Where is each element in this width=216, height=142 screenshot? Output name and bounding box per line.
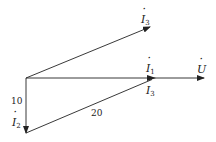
svg-text:·: · bbox=[200, 53, 204, 66]
i3-lower-phasor-arrow bbox=[26, 80, 152, 134]
i2-magnitude-label: 10 bbox=[11, 96, 23, 106]
i2-label: I2 · bbox=[11, 106, 21, 130]
u-label: U · bbox=[197, 53, 207, 76]
i3-magnitude-label: 20 bbox=[91, 108, 103, 118]
svg-text:·: · bbox=[143, 3, 147, 16]
i3-upper-phasor-arrow bbox=[26, 27, 150, 78]
svg-text:·: · bbox=[14, 106, 18, 119]
svg-text:·: · bbox=[148, 74, 152, 87]
i3-upper-label: I3 · bbox=[140, 3, 150, 27]
svg-text:·: · bbox=[148, 52, 152, 65]
i1-label: I1 · bbox=[145, 52, 155, 76]
phasor-diagram: I3 · I1 · I3 · U · I2 · 10 20 bbox=[0, 0, 216, 142]
